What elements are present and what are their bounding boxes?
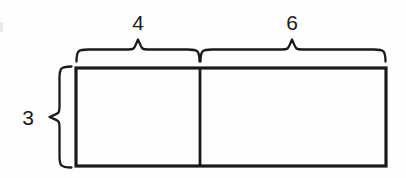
diagram-canvas xyxy=(0,0,406,178)
dimension-label-top-left: 4 xyxy=(132,12,144,33)
dimension-label-top-right: 6 xyxy=(286,12,298,33)
rectangle-outline xyxy=(76,68,386,166)
brace-top-right xyxy=(201,40,386,62)
brace-left xyxy=(50,67,72,168)
brace-top-left xyxy=(77,40,200,62)
geometry-figure: 4 6 3 xyxy=(0,0,406,178)
dimension-label-left: 3 xyxy=(22,107,34,128)
